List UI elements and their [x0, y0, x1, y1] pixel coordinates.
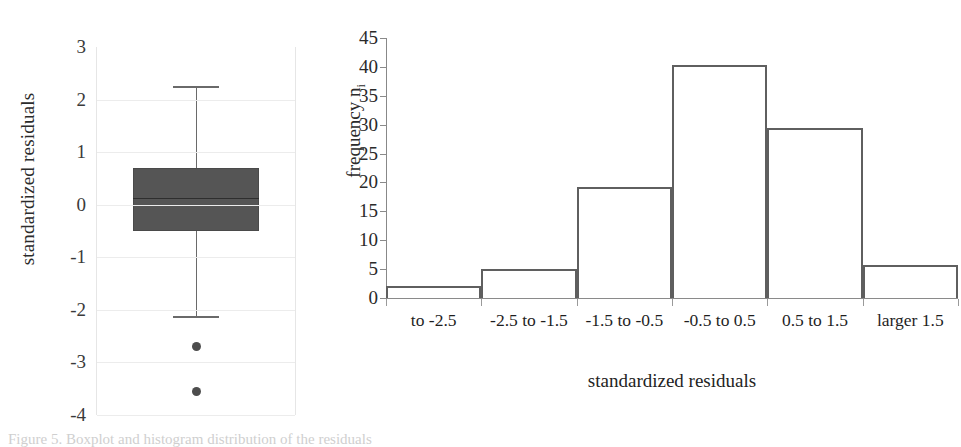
- boxplot-lower-whisker-cap: [173, 316, 219, 318]
- histogram-bar: [577, 187, 672, 299]
- histogram-y-tick-mark: [380, 211, 387, 212]
- histogram-y-tick-mark: [380, 182, 387, 183]
- figure-caption: Figure 5. Boxplot and histogram distribu…: [8, 431, 628, 447]
- histogram-y-tick-mark: [380, 38, 387, 39]
- histogram-x-tick-mark: [481, 299, 482, 306]
- histogram-bar: [386, 286, 481, 298]
- boxplot-y-tick-label: -1: [52, 247, 86, 266]
- histogram-x-axis-label: standardized residuals: [386, 370, 958, 392]
- boxplot-upper-whisker-cap: [173, 86, 219, 88]
- histogram-x-tick-labels: to -2.5-2.5 to -1.5-1.5 to -0.5-0.5 to 0…: [386, 310, 961, 366]
- boxplot-y-axis-label: standardized residuals: [17, 59, 39, 299]
- histogram-bar: [481, 269, 576, 298]
- histogram-bar: [767, 128, 862, 298]
- histogram-bar: [863, 265, 958, 299]
- boxplot-outlier-point: [192, 342, 201, 351]
- histogram-bar: [672, 65, 767, 298]
- histogram-y-tick-label: 10: [336, 230, 378, 249]
- boxplot-gridline: [97, 257, 295, 258]
- histogram-y-tick-mark: [380, 96, 387, 97]
- histogram-x-tick-mark: [386, 299, 387, 306]
- boxplot-gridline: [97, 362, 295, 363]
- histogram-y-tick-labels: 454035302520151050: [336, 18, 378, 318]
- histogram-x-tick-label: to -2.5: [386, 310, 481, 331]
- histogram-y-tick-label: 20: [336, 172, 378, 191]
- histogram-bars: [386, 38, 958, 298]
- histogram-y-tick-label: 30: [336, 115, 378, 134]
- histogram-x-tick-label: -0.5 to 0.5: [672, 310, 767, 331]
- histogram-y-tick-mark: [380, 269, 387, 270]
- boxplot-y-tick-label: 3: [52, 37, 86, 56]
- boxplot-gridline: [97, 415, 295, 416]
- histogram-y-tick-mark: [380, 125, 387, 126]
- boxplot-y-tick-label: -4: [52, 405, 86, 424]
- histogram-x-tick-mark: [958, 299, 959, 306]
- histogram-x-tick-label: -1.5 to -0.5: [577, 310, 672, 331]
- histogram-x-tick-mark: [672, 299, 673, 306]
- histogram-x-tick-mark: [863, 299, 864, 306]
- boxplot-gridline: [97, 205, 295, 206]
- boxplot-y-tick-label: 2: [52, 90, 86, 109]
- histogram-y-tick-label: 5: [336, 259, 378, 278]
- figure-canvas: standardized residuals 3210-1-2-3-4 freq…: [0, 0, 961, 447]
- histogram-x-tick-label: 0.5 to 1.5: [767, 310, 862, 331]
- boxplot-gridline: [97, 100, 295, 101]
- histogram-y-tick-mark: [380, 240, 387, 241]
- histogram-y-tick-label: 15: [336, 201, 378, 220]
- boxplot-median-line: [133, 198, 259, 199]
- histogram-x-tick-mark: [767, 299, 768, 306]
- boxplot-y-tick-label: -3: [52, 352, 86, 371]
- boxplot-chart: standardized residuals 3210-1-2-3-4: [0, 18, 310, 428]
- boxplot-lower-whisker: [196, 231, 197, 316]
- boxplot-y-tick-labels: 3210-1-2-3-4: [52, 18, 86, 428]
- histogram-x-tick-label: larger 1.5: [863, 310, 958, 331]
- boxplot-plot-area: [96, 47, 296, 415]
- boxplot-y-tick-label: 0: [52, 195, 86, 214]
- boxplot-outlier-point: [192, 387, 201, 396]
- boxplot-box: [133, 168, 259, 231]
- boxplot-gridline: [97, 152, 295, 153]
- histogram-y-tick-label: 25: [336, 144, 378, 163]
- boxplot-y-tick-label: -2: [52, 300, 86, 319]
- histogram-x-tick-mark: [577, 299, 578, 306]
- boxplot-y-tick-label: 1: [52, 142, 86, 161]
- histogram-y-tick-label: 0: [336, 288, 378, 307]
- histogram-chart: frequency ni 454035302520151050 to -2.5-…: [318, 18, 961, 438]
- histogram-y-tick-mark: [380, 154, 387, 155]
- boxplot-gridline: [97, 310, 295, 311]
- histogram-x-tick-label: -2.5 to -1.5: [481, 310, 576, 331]
- histogram-y-tick-label: 45: [336, 28, 378, 47]
- histogram-y-tick-label: 35: [336, 86, 378, 105]
- histogram-y-tick-mark: [380, 67, 387, 68]
- histogram-y-tick-label: 40: [336, 57, 378, 76]
